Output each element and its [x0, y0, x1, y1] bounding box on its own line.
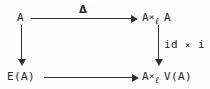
node-bottom-right-left-factor: A [142, 70, 149, 83]
arrow-label-delta: Δ [79, 4, 87, 15]
node-bottom-right-right-factor: V(A) [164, 70, 192, 83]
label-id: id [164, 38, 178, 51]
commutative-diagram: A A×ℓA E(A) A×ℓV(A) Δ id × i [0, 0, 210, 89]
fibre-product-symbol: ×ℓ [149, 71, 164, 83]
arrow-shaft [21, 25, 22, 60]
node-top-right-left-factor: A [142, 11, 149, 24]
arrowhead-down [18, 59, 26, 66]
arrow-shaft [158, 25, 159, 60]
arrow-shaft [44, 77, 133, 78]
diagram-node-bottom-right: A×ℓV(A) [142, 71, 192, 83]
arrowhead-right [132, 74, 139, 82]
arrowhead-right [131, 15, 138, 23]
diagram-node-top-left: A [17, 12, 24, 23]
diagram-node-bottom-left: E(A) [7, 71, 35, 82]
times-operator: × [149, 12, 155, 22]
times-operator: × [149, 71, 155, 81]
node-top-right-right-factor: A [164, 11, 171, 24]
arrowhead-down [155, 59, 163, 66]
ell-subscript: ℓ [155, 75, 159, 86]
label-i: i [198, 38, 205, 51]
diagram-node-top-right: A×ℓA [142, 12, 171, 24]
arrow-shaft [31, 18, 132, 19]
fibre-product-symbol: ×ℓ [149, 12, 164, 24]
arrow-label-id-times-i: id × i [164, 39, 205, 51]
